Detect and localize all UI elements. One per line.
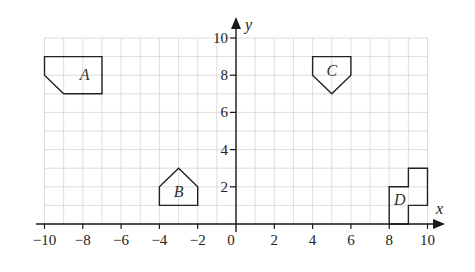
- coordinate-grid-diagram: ABCD x y −10−8−6−4−20246810246810: [0, 0, 475, 272]
- x-tick-label: −10: [33, 232, 56, 248]
- shape-label-a: A: [79, 66, 90, 83]
- x-tick-label: 10: [420, 232, 435, 248]
- shape-label-d: D: [393, 191, 406, 208]
- x-tick-label: 2: [271, 232, 279, 248]
- x-tick-label: −2: [190, 232, 206, 248]
- x-tick-label: 6: [347, 232, 355, 248]
- x-tick-label: 0: [227, 232, 235, 248]
- x-tick-label: 4: [309, 232, 317, 248]
- shape-label-c: C: [326, 62, 337, 79]
- x-tick-label: −8: [75, 232, 91, 248]
- y-tick-label: 2: [221, 179, 229, 195]
- y-axis-arrow-icon: [231, 17, 241, 29]
- x-tick-label: −4: [151, 232, 167, 248]
- shape-label-b: B: [174, 183, 184, 200]
- axes: x y: [36, 16, 445, 232]
- x-axis-arrow-icon: [433, 219, 445, 229]
- axis-ticks: −10−8−6−4−20246810246810: [33, 30, 435, 248]
- x-tick-label: −6: [113, 232, 129, 248]
- x-axis-label: x: [435, 200, 443, 217]
- y-tick-label: 8: [221, 67, 229, 83]
- y-tick-label: 10: [213, 30, 228, 46]
- y-tick-label: 6: [221, 104, 229, 120]
- y-axis-label: y: [243, 16, 253, 34]
- x-tick-label: 8: [385, 232, 393, 248]
- y-tick-label: 4: [221, 142, 229, 158]
